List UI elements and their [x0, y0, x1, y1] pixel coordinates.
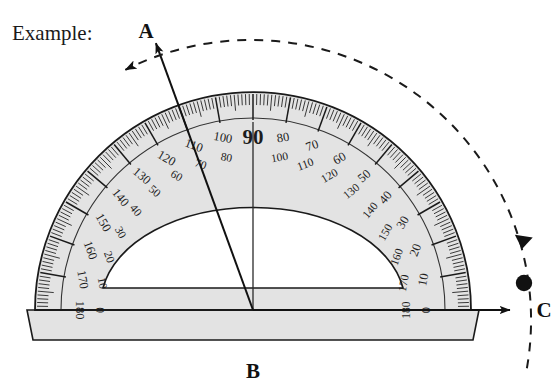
tick-minor	[458, 299, 469, 300]
scale-label-inner: 0	[94, 307, 106, 313]
tick-minor	[242, 94, 243, 105]
scale-label-inner: 80	[220, 150, 234, 164]
point-C-dot	[516, 275, 532, 291]
point-label-C: C	[536, 298, 551, 322]
tick-minor	[264, 94, 265, 105]
point-label-A: A	[138, 19, 154, 43]
scale-label-outer: 10	[415, 272, 431, 287]
figure-canvas: 0180101702016030150401405013060120701108…	[0, 0, 560, 383]
example-caption: Example:	[12, 21, 92, 45]
point-label-B: B	[246, 359, 260, 383]
scale-label-outer: 180	[73, 301, 87, 320]
scale-label-inner: 10	[96, 276, 110, 290]
protractor-diagram: 0180101702016030150401405013060120701108…	[0, 0, 560, 383]
scale-label-outer: 80	[276, 130, 291, 146]
tick-minor	[37, 299, 48, 300]
arc-arrowhead-at-C	[513, 235, 533, 250]
